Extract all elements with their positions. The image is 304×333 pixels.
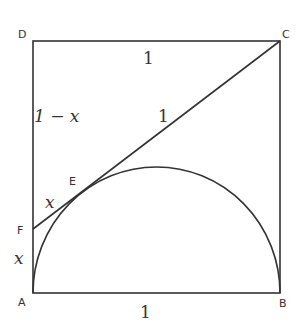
label-point-b: B [279, 297, 287, 310]
geometry-diagram: D C A B E F 1 1 1 1 − x x x [0, 0, 304, 333]
label-point-f: F [17, 224, 23, 237]
label-point-a: A [18, 296, 26, 309]
tangent-line-fc [33, 41, 280, 229]
label-top-side: 1 [143, 48, 154, 68]
label-point-c: C [282, 28, 290, 41]
label-dc-segment: 1 − x [34, 106, 80, 126]
label-af-segment: x [14, 248, 24, 268]
label-fe-segment: x [45, 192, 55, 212]
label-point-d: D [18, 28, 26, 41]
label-ec-segment: 1 [158, 106, 169, 126]
label-point-e: E [69, 175, 76, 188]
label-bottom-side: 1 [140, 302, 151, 322]
